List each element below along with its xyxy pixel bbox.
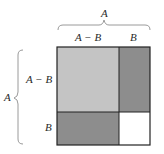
left-brace-label: A [3, 91, 11, 103]
row-label-a-minus-b: A − B [25, 73, 52, 85]
region-top-right [119, 47, 150, 112]
region-bottom-right [119, 112, 150, 145]
square-decomposition-diagram: A A − B B A A − B B [0, 0, 164, 154]
region-top-left [57, 47, 119, 112]
column-label-a-minus-b: A − B [74, 31, 101, 43]
row-label-b: B [45, 121, 52, 133]
top-brace-icon [58, 20, 150, 30]
left-brace-icon [14, 50, 23, 144]
column-label-b: B [130, 31, 137, 43]
region-bottom-left [57, 112, 119, 145]
top-brace-label: A [100, 7, 108, 19]
